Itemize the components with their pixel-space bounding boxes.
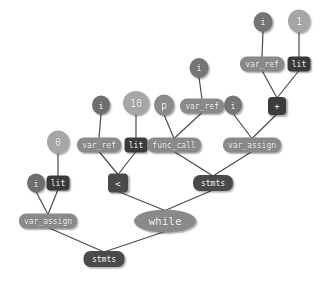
tree-node-var_ref[interactable]: var_ref [240,57,284,72]
tree-node-var_assign[interactable]: var_assign [19,214,77,229]
tree-node-lit[interactable]: lit [47,176,70,191]
tree-node-stmts[interactable]: stmts [84,251,125,267]
tree-node-i[interactable]: i [224,96,242,115]
tree-node-[interactable]: < [108,174,128,193]
tree-edge [118,152,136,175]
tree-node-[interactable]: + [268,97,286,115]
tree-node-i[interactable]: i [190,58,209,78]
tree-node-stmts[interactable]: stmts [193,175,233,191]
tree-edge [48,228,104,253]
tree-edge [199,77,202,100]
tree-node-i[interactable]: i [254,12,273,32]
tree-node-lit[interactable]: lit [125,138,148,153]
tree-node-10[interactable]: 10 [123,91,149,115]
tree-edge [233,114,252,139]
tree-node-i[interactable]: i [92,96,110,115]
tree-node-0[interactable]: 0 [47,131,69,154]
tree-node-var_assign[interactable]: var_assign [223,138,281,153]
tree-edge [213,152,252,177]
tree-node-p[interactable]: p [154,95,174,116]
tree-edge [36,192,48,215]
tree-edge [164,115,174,139]
tree-edge [104,232,165,253]
tree-node-func_call[interactable]: func_call [147,138,201,153]
tree-node-lit[interactable]: lit [288,57,311,72]
tree-node-while[interactable]: while [134,210,196,233]
tree-edge [48,190,58,215]
tree-edge [118,192,165,211]
ast-diagram: i1var_reflitii10pvar_refi+0var_reflitfun… [0,0,323,289]
tree-edge [174,152,213,177]
tree-node-var_ref[interactable]: var_ref [180,99,224,114]
tree-edge [99,152,118,175]
tree-edge [174,113,202,139]
tree-edge [165,190,213,211]
tree-node-var_ref[interactable]: var_ref [77,138,121,153]
tree-edge [262,71,277,99]
tree-edge [277,71,299,99]
tree-edge [262,31,263,58]
tree-edge [252,114,277,139]
tree-edge [99,114,101,139]
tree-node-i[interactable]: i [27,174,45,193]
tree-node-1[interactable]: 1 [288,10,310,33]
